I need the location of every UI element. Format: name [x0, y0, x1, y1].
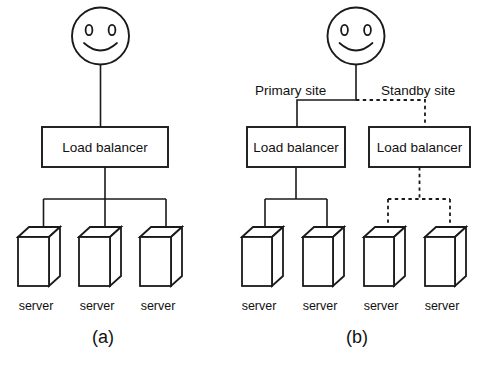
server-node: server: [79, 227, 121, 313]
server-label: server: [364, 299, 399, 313]
server-label: server: [242, 299, 277, 313]
load-balancer-label: Load balancer: [377, 140, 463, 155]
panel-b-caption: (b): [346, 327, 368, 347]
server-node: server: [18, 227, 60, 313]
panel-a: Load balancer server server: [18, 8, 182, 348]
smiley-face-user-icon: [72, 8, 129, 65]
server-label: server: [80, 299, 115, 313]
server-node: server: [425, 227, 466, 313]
figure-canvas: Load balancer server server: [0, 0, 480, 369]
standby-load-balancer-node: Load balancer: [369, 127, 470, 167]
server-label: server: [303, 299, 338, 313]
smiley-face-user-icon: [328, 8, 385, 65]
panel-a-caption: (a): [92, 327, 114, 347]
standby-site-label: Standby site: [381, 83, 455, 98]
server-label: server: [425, 299, 460, 313]
panel-b: Primary site Standby site Load balancer …: [242, 8, 470, 348]
server-node: server: [140, 227, 182, 313]
link-primary-site: [297, 100, 356, 127]
server-label: server: [19, 299, 54, 313]
server-node: server: [242, 227, 283, 313]
link-standby-site: [356, 100, 425, 127]
primary-load-balancer-node: Load balancer: [247, 127, 345, 167]
load-balancer-node: Load balancer: [42, 127, 168, 167]
server-label: server: [141, 299, 176, 313]
server-node: server: [303, 227, 344, 313]
primary-site-label: Primary site: [255, 83, 326, 98]
load-balancer-label: Load balancer: [253, 140, 339, 155]
server-node: server: [364, 227, 405, 313]
load-balancer-label: Load balancer: [62, 140, 148, 155]
